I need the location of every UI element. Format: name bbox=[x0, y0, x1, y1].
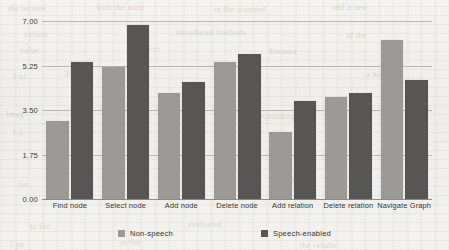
x-tick-label-add-node: Add node bbox=[165, 201, 198, 210]
y-tick-label: 7.00 bbox=[22, 17, 38, 26]
bar-speech-enabled-find-node bbox=[71, 62, 94, 199]
bar-non-speech-delete-node bbox=[214, 62, 237, 199]
bar-speech-enabled-add-node bbox=[182, 82, 205, 199]
bar-speech-enabled-delete-relation bbox=[349, 93, 372, 199]
legend-swatch-icon bbox=[261, 230, 268, 237]
legend-swatch-icon bbox=[118, 230, 125, 237]
y-tick-label: 0.00 bbox=[22, 195, 38, 204]
plot-area bbox=[42, 21, 432, 199]
bar-speech-enabled-add-relation bbox=[294, 101, 317, 199]
bar-speech-enabled-select-node bbox=[127, 25, 150, 199]
legend-item-speech-enabled: Speech-enabled bbox=[261, 229, 331, 238]
x-tick-label-add-relation: Add relation bbox=[272, 201, 313, 210]
bar-speech-enabled-delete-node bbox=[238, 54, 261, 199]
y-tick-label: 5.25 bbox=[22, 61, 38, 70]
bar-chart: 0.001.753.505.257.00 Find nodeSelect nod… bbox=[0, 0, 449, 250]
bar-non-speech-add-relation bbox=[269, 132, 292, 199]
chart-legend: Non-speechSpeech-enabled bbox=[0, 226, 449, 240]
bar-non-speech-delete-relation bbox=[325, 97, 348, 199]
bar-non-speech-select-node bbox=[102, 67, 125, 199]
legend-label: Speech-enabled bbox=[273, 229, 331, 238]
legend-label: Non-speech bbox=[130, 229, 173, 238]
x-tick-label-navigate-graph: Navigate Graph bbox=[377, 201, 431, 210]
axis-baseline bbox=[42, 199, 432, 200]
x-tick-label-find-node: Find node bbox=[53, 201, 87, 210]
x-tick-label-delete-node: Delete node bbox=[216, 201, 258, 210]
bar-non-speech-navigate-graph bbox=[381, 40, 404, 199]
y-axis: 0.001.753.505.257.00 bbox=[0, 21, 38, 199]
bar-non-speech-find-node bbox=[46, 121, 69, 199]
bars-layer bbox=[42, 21, 432, 199]
x-tick-label-select-node: Select node bbox=[105, 201, 146, 210]
x-axis: Find nodeSelect nodeAdd nodeDelete nodeA… bbox=[42, 201, 432, 217]
y-tick-label: 3.50 bbox=[22, 106, 38, 115]
y-tick-label: 1.75 bbox=[22, 150, 38, 159]
x-tick-label-delete-relation: Delete relation bbox=[323, 201, 373, 210]
bar-non-speech-add-node bbox=[158, 93, 181, 199]
legend-item-non-speech: Non-speech bbox=[118, 229, 173, 238]
bar-speech-enabled-navigate-graph bbox=[405, 80, 428, 200]
